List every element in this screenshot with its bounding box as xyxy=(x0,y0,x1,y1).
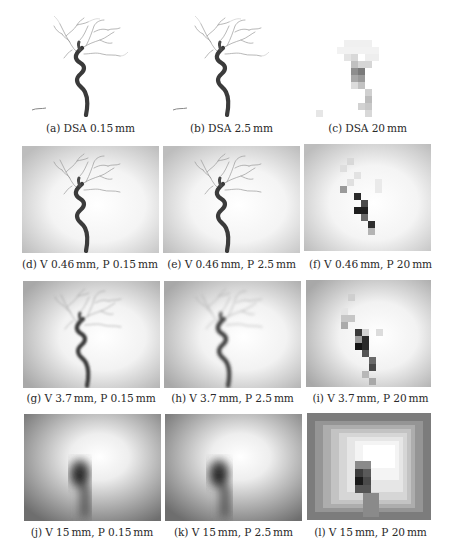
caption-k: (k) V 15 mm, P 2.5 mm xyxy=(160,526,307,538)
panel-e-v046-p25 xyxy=(163,146,300,253)
panel-d-v046-p015 xyxy=(22,146,159,253)
panel-h-v37-p25 xyxy=(164,281,301,388)
caption-h: (h) V 3.7 mm, P 2.5 mm xyxy=(160,392,305,404)
virtual-projection-image xyxy=(163,146,300,253)
pixelated-projection-image xyxy=(304,144,431,251)
caption-a: (a) DSA 0.15 mm xyxy=(22,122,159,134)
angiogram-image xyxy=(163,10,300,117)
pixelated-projection-image xyxy=(307,413,431,520)
virtual-projection-image xyxy=(164,281,301,388)
virtual-projection-image xyxy=(22,146,159,253)
caption-g: (g) V 3.7 mm, P 0.15 mm xyxy=(11,392,171,404)
panel-i-v37-p20 xyxy=(306,280,431,387)
caption-f: (f) V 0.46 mm, P 20 mm xyxy=(302,258,439,270)
caption-c: (c) DSA 20 mm xyxy=(304,122,431,134)
virtual-projection-image xyxy=(24,414,161,521)
caption-j: (j) V 15 mm, P 0.15 mm xyxy=(12,526,172,538)
caption-d: (d) V 0.46 mm, P 0.15 mm xyxy=(10,258,170,270)
panel-f-v046-p20 xyxy=(304,144,431,251)
panel-b-dsa-2-5mm xyxy=(163,10,300,117)
angiogram-image xyxy=(22,10,159,117)
caption-l: (l) V 15 mm, P 20 mm xyxy=(302,526,439,538)
caption-e: (e) V 0.46 mm, P 2.5 mm xyxy=(158,258,305,270)
caption-b: (b) DSA 2.5 mm xyxy=(163,122,300,134)
virtual-projection-image xyxy=(23,281,160,388)
panel-c-dsa-20mm xyxy=(304,10,431,117)
panel-j-v15-p015 xyxy=(24,414,161,521)
pixelated-angiogram-image xyxy=(304,10,431,117)
panel-g-v37-p015 xyxy=(23,281,160,388)
panel-k-v15-p25 xyxy=(165,414,302,521)
virtual-projection-image xyxy=(165,414,302,521)
caption-i: (i) V 3.7 mm, P 20 mm xyxy=(302,392,439,404)
pixelated-projection-image xyxy=(306,280,431,387)
panel-l-v15-p20 xyxy=(307,413,431,520)
panel-a-dsa-0-15mm xyxy=(22,10,159,117)
